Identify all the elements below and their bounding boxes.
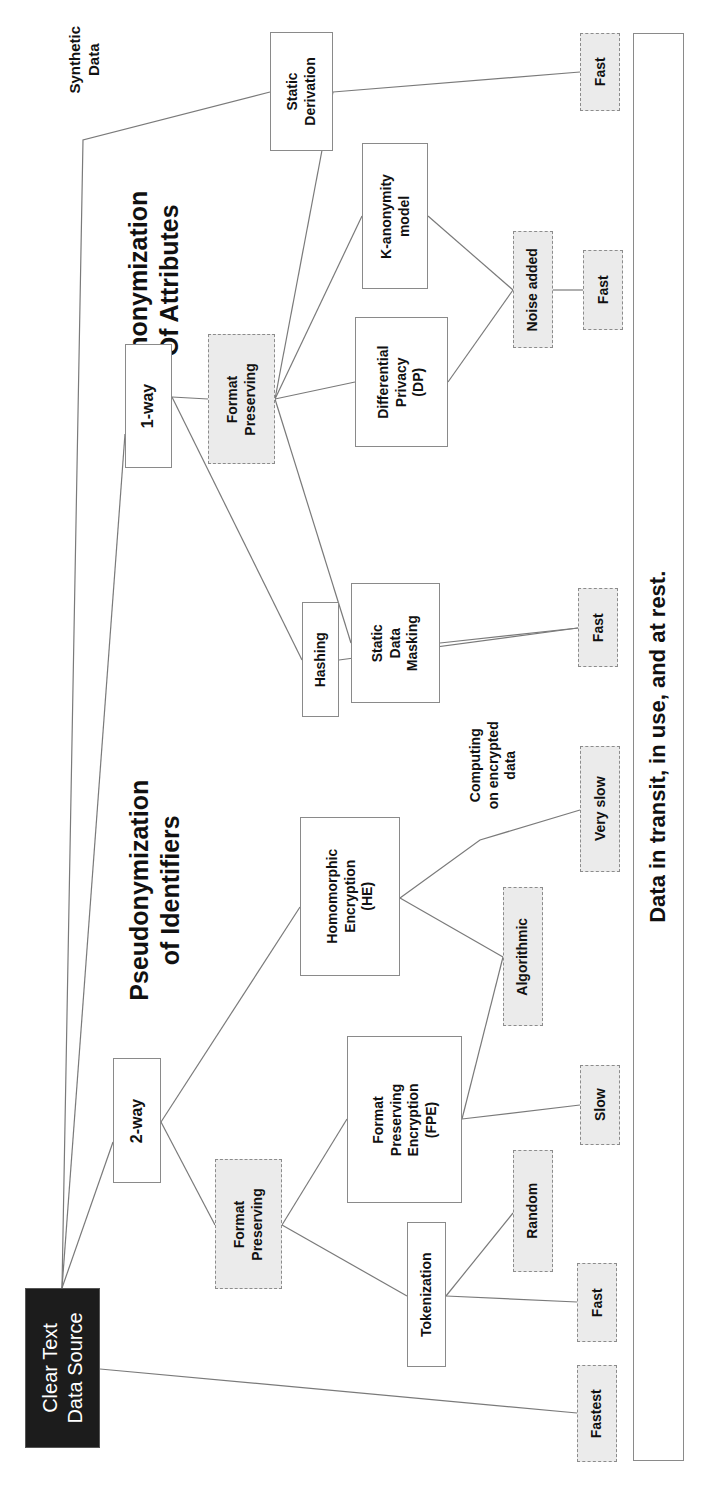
static-data-masking-label: Static Data Masking [369,615,422,671]
random-node: Random [513,1150,553,1272]
tokenization-label: Tokenization [418,1252,436,1337]
one-way-node: 1-way [125,344,172,468]
clear-text-data-source: Clear Text Data Source [25,1288,100,1448]
hashing-label: Hashing [312,632,330,687]
speed-fpe: Slow [580,1065,620,1145]
speed-he-label: Very slow [591,777,609,842]
fpe-node: Format Preserving Encryption (FPE) [347,1036,462,1203]
one-way-format-preserving-label: Format Preserving [224,363,259,435]
speed-tokenization-label: Fast [588,1288,606,1317]
he-node: Homomorphic Encryption (HE) [300,817,400,976]
speed-tokenization: Fast [577,1263,617,1342]
two-way-label: 2-way [127,1098,147,1142]
two-way-node: 2-way [113,1058,161,1183]
speed-hashing-label: Fast [589,613,607,642]
static-derivation-node: Static Derivation [270,32,333,151]
privacy-techniques-diagram: Pseudonymization of Identifiers Anonymiz… [0,0,708,1507]
noise-added-label: Noise added [524,248,542,331]
root-label: Clear Text Data Source [38,1312,88,1423]
one-way-label: 1-way [139,384,159,428]
speed-he: Very slow [580,746,620,872]
differential-privacy-label: Differential Privacy (DP) [375,345,428,418]
speed-synthetic: Fast [580,33,620,111]
noise-added-node: Noise added [513,231,553,348]
static-derivation-label: Static Derivation [284,57,319,125]
data-states-bar: Data in transit, in use, and at rest. [633,33,684,1461]
speed-noise: Fast [583,250,623,330]
speed-fpe-label: Slow [591,1089,609,1122]
synthetic-data-title: Synthetic Data [55,0,115,120]
hashing-node: Hashing [302,602,339,717]
anonymization-title-text: Anonymization Of Attributes [124,190,187,369]
computing-note-text: Computing on encrypted data [466,721,519,809]
speed-noise-label: Fast [594,276,612,305]
speed-fastest: Fastest [577,1365,617,1462]
random-label: Random [524,1183,542,1239]
synthetic-data-text: Synthetic Data [66,26,104,94]
k-anonymity-label: K-anonymity model [378,174,413,259]
pseudonymization-title: Pseudonymization of Identifiers [95,740,215,1040]
fpe-label: Format Preserving Encryption (FPE) [370,1083,440,1156]
data-states-label: Data in transit, in use, and at rest. [645,571,673,923]
two-way-format-preserving-label: Format Preserving [231,1188,266,1260]
speed-fastest-label: Fastest [588,1389,606,1438]
speed-hashing-masking: Fast [578,588,618,667]
pseudonymization-title-text: Pseudonymization of Identifiers [124,780,187,1001]
two-way-format-preserving: Format Preserving [215,1159,282,1289]
speed-synthetic-label: Fast [591,58,609,87]
static-data-masking-node: Static Data Masking [351,583,440,703]
differential-privacy-node: Differential Privacy (DP) [355,317,448,447]
he-label: Homomorphic Encryption (HE) [324,849,377,944]
algorithmic-label: Algorithmic [514,918,532,996]
computing-note: Computing on encrypted data [455,700,530,830]
one-way-format-preserving: Format Preserving [208,334,275,464]
algorithmic-node: Algorithmic [503,887,543,1026]
k-anonymity-node: K-anonymity model [362,143,428,289]
tokenization-node: Tokenization [407,1222,446,1367]
